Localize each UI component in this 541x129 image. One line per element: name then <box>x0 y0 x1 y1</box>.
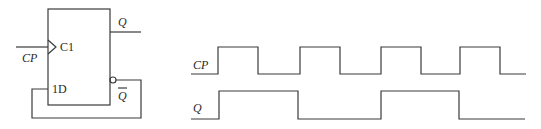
d-flipflop-diagram: C1 CP 1D Q Q CP Q <box>0 0 541 129</box>
clock-pin-label: C1 <box>60 40 74 54</box>
qbar-output-label: Q <box>118 89 127 103</box>
q-waveform <box>191 91 525 119</box>
q-waveform-label: Q <box>193 101 202 115</box>
cp-waveform-label: CP <box>193 58 209 72</box>
q-output-label: Q <box>118 15 127 29</box>
clock-triangle-icon <box>48 40 56 54</box>
inversion-bubble-icon <box>110 77 116 83</box>
data-pin-label: 1D <box>52 82 67 96</box>
cp-input-label: CP <box>22 51 38 65</box>
cp-waveform <box>191 47 526 74</box>
